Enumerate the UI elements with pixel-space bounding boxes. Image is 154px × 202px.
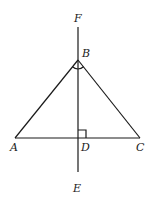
label-d: D bbox=[80, 141, 90, 154]
label-a: A bbox=[9, 141, 18, 154]
right-angle-mark-d bbox=[78, 130, 86, 138]
label-e: E bbox=[72, 182, 81, 195]
segment-bc bbox=[78, 60, 140, 138]
label-c: C bbox=[136, 141, 145, 154]
label-f: F bbox=[73, 12, 82, 25]
segment-ab bbox=[15, 60, 78, 138]
geometry-diagram: F B A D C E bbox=[0, 0, 154, 202]
label-b: B bbox=[81, 47, 90, 60]
